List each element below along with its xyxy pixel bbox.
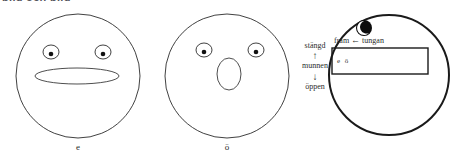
vowel-space-drawing	[328, 4, 450, 148]
mouth-open-label: öppen	[289, 83, 341, 91]
eye-icon	[356, 20, 372, 36]
figure-face-o-umlaut: ö	[157, 12, 297, 140]
down-arrow-icon: ↓	[289, 71, 341, 83]
figure-face-e: e	[8, 12, 148, 140]
face-outline	[165, 14, 289, 138]
mouth-closed-label: stängd	[289, 42, 341, 50]
mouth-openness-axis: stängd ↑ munnen ↓ öppen	[289, 42, 341, 91]
face-o-label: ö	[157, 142, 297, 152]
head-outline-thick	[329, 15, 449, 135]
tongue-axis-label: fram←tungan	[334, 35, 384, 45]
figure-vowel-space: fram←tungan e ö	[328, 4, 450, 148]
mouth-wide-ellipse	[35, 68, 119, 84]
cut-off-heading: bild och bild	[2, 0, 71, 3]
left-eye	[196, 43, 212, 57]
left-eye	[43, 45, 59, 59]
tongue-axis-name: tungan	[362, 36, 384, 45]
mouth-axis-name: munnen	[289, 62, 341, 70]
right-eye	[95, 45, 111, 59]
diagram-page: bild och bild e	[0, 0, 451, 160]
face-e-label: e	[8, 142, 148, 152]
mouth-round-ellipse	[217, 58, 241, 90]
face-o-drawing	[157, 12, 297, 140]
right-eye	[248, 43, 264, 57]
tongue-arrow-icon: ←	[349, 35, 362, 45]
face-e-drawing	[8, 12, 148, 140]
